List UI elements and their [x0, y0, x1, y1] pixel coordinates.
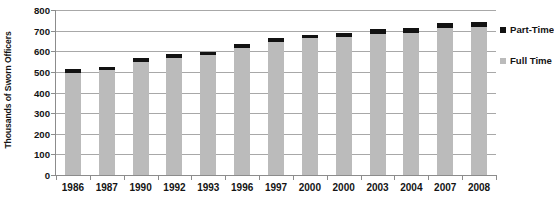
bar-segment-part-time: [336, 33, 352, 37]
bar-segment-full-time: [65, 73, 81, 176]
bar-segment-full-time: [268, 42, 284, 175]
bar-segment-full-time: [336, 37, 352, 175]
y-axis-tick-label: 100: [34, 149, 50, 160]
bar-segment-full-time: [370, 34, 386, 175]
bar-segment-part-time: [268, 38, 284, 42]
x-axis-line: [56, 175, 497, 176]
legend-item[interactable]: Part-Time: [500, 24, 554, 35]
x-axis-tickmark: [428, 176, 429, 180]
x-axis-tick-label: 2008: [468, 182, 490, 193]
x-axis-tickmark: [158, 176, 159, 180]
y-axis-tickmark: [51, 10, 56, 11]
bar-group: [99, 10, 115, 175]
bar-group: [200, 10, 216, 175]
bar-segment-part-time: [166, 54, 182, 57]
x-axis-tick-label: 1996: [231, 182, 253, 193]
bar-segment-part-time: [65, 69, 81, 72]
bar-group: [403, 10, 419, 175]
bar-segment-part-time: [403, 28, 419, 32]
y-axis-tick-label: 400: [34, 87, 50, 98]
y-axis-tickmark: [51, 93, 56, 94]
bar-segment-part-time: [99, 67, 115, 70]
bar-group: [268, 10, 284, 175]
x-axis-tickmark: [496, 176, 497, 180]
bar-segment-part-time: [302, 35, 318, 39]
x-axis-tick-label: 1992: [163, 182, 185, 193]
bar-segment-full-time: [166, 58, 182, 175]
legend-label: Part-Time: [510, 24, 554, 35]
x-axis-tickmark: [56, 176, 57, 180]
x-axis-tickmark: [225, 176, 226, 180]
y-axis-tickmark: [51, 134, 56, 135]
y-axis-tickmark: [51, 31, 56, 32]
bar-segment-full-time: [200, 55, 216, 175]
x-axis-tick-label: 1997: [265, 182, 287, 193]
legend-item[interactable]: Full Time: [500, 55, 552, 66]
y-axis-tick-label: 500: [34, 66, 50, 77]
bar-segment-full-time: [302, 38, 318, 175]
plot-area: [56, 10, 496, 175]
bar-group: [370, 10, 386, 175]
bar-segment-full-time: [471, 27, 487, 175]
x-axis-tick-label: 1990: [129, 182, 151, 193]
bar-segment-part-time: [133, 58, 149, 62]
y-axis-tick-label: 0: [45, 170, 50, 181]
x-axis-tick-label: 2007: [434, 182, 456, 193]
bar-segment-full-time: [133, 62, 149, 175]
bar-group: [336, 10, 352, 175]
bar-group: [437, 10, 453, 175]
x-axis-tickmark: [259, 176, 260, 180]
bar-segment-full-time: [403, 33, 419, 175]
x-axis-tickmark: [327, 176, 328, 180]
y-axis-tickmark: [51, 113, 56, 114]
x-axis-tick-label: 1987: [96, 182, 118, 193]
bar-segment-part-time: [200, 52, 216, 56]
x-axis-tick-label: 2000: [299, 182, 321, 193]
x-axis-tickmark: [293, 176, 294, 180]
x-axis-tickmark: [90, 176, 91, 180]
bar-segment-part-time: [370, 29, 386, 33]
x-axis-tickmark: [462, 176, 463, 180]
y-axis-title-text: Thousands of Sworn Officers: [3, 31, 13, 148]
y-axis-tickmark: [51, 154, 56, 155]
x-axis-tick-label: 2000: [333, 182, 355, 193]
bar-chart: Thousands of Sworn Officers 800700600500…: [0, 0, 554, 206]
bar-segment-full-time: [234, 48, 250, 175]
bar-segment-part-time: [234, 44, 250, 48]
bar-group: [166, 10, 182, 175]
y-axis-title: Thousands of Sworn Officers: [0, 0, 16, 180]
x-axis-tick-label: 1993: [197, 182, 219, 193]
y-axis-tick-label: 800: [34, 5, 50, 16]
bar-group: [471, 10, 487, 175]
bar-segment-full-time: [437, 28, 453, 175]
bar-segment-full-time: [99, 70, 115, 175]
bar-group: [302, 10, 318, 175]
y-axis-tick-labels: 8007006005004003002001000: [16, 0, 53, 180]
x-axis-tick-label: 2004: [400, 182, 422, 193]
x-axis-tick-label: 2003: [366, 182, 388, 193]
bar-segment-part-time: [437, 23, 453, 28]
y-axis-tick-label: 700: [34, 25, 50, 36]
x-axis-tickmark: [191, 176, 192, 180]
bar-group: [234, 10, 250, 175]
legend-swatch-icon: [500, 27, 506, 33]
x-axis-tickmark: [124, 176, 125, 180]
y-axis-tick-label: 200: [34, 128, 50, 139]
bar-group: [133, 10, 149, 175]
x-axis-tickmark: [361, 176, 362, 180]
y-axis-tickmark: [51, 72, 56, 73]
x-axis-tick-label: 1986: [62, 182, 84, 193]
y-axis-tick-label: 600: [34, 46, 50, 57]
x-axis-tickmark: [394, 176, 395, 180]
bar-group: [65, 10, 81, 175]
bar-segment-part-time: [471, 22, 487, 27]
x-axis-tick-labels: 1986198719901992199319961997200020002003…: [56, 182, 496, 198]
legend-label: Full Time: [510, 55, 552, 66]
legend-swatch-icon: [500, 58, 506, 64]
y-axis-tickmark: [51, 51, 56, 52]
y-axis-tick-label: 300: [34, 108, 50, 119]
